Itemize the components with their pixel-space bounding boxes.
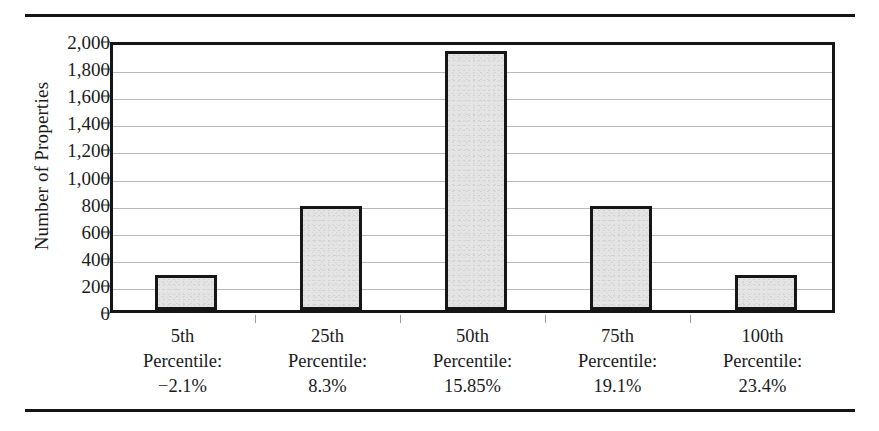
top-divider-rule	[25, 14, 855, 17]
y-axis-tick-label: 0	[20, 304, 110, 323]
x-axis-category-label-line: 50th	[400, 324, 545, 349]
plot-area	[110, 42, 835, 313]
x-axis-tick-mark	[400, 315, 401, 323]
bar-slot	[403, 45, 548, 310]
plot-inner	[113, 45, 832, 310]
bar-chart-figure: Number of Properties 2,0001,8001,6001,40…	[0, 0, 879, 431]
bar	[300, 206, 362, 310]
bar-slot	[693, 45, 838, 310]
x-axis-category-label-line: Percentile:	[545, 349, 690, 374]
x-axis-category-label-line: 5th	[110, 324, 255, 349]
bar	[735, 275, 797, 310]
x-axis-category-label-line: Percentile:	[110, 349, 255, 374]
y-axis-tick-mark	[101, 177, 110, 178]
bar	[155, 275, 217, 310]
x-axis-tick-mark	[255, 315, 256, 323]
x-axis-category-label-line: 15.85%	[400, 374, 545, 399]
x-axis-category-label-line: −2.1%	[110, 374, 255, 399]
bottom-divider-rule	[25, 409, 855, 412]
x-axis-category-label-line: 25th	[255, 324, 400, 349]
x-axis-category-label-line: 75th	[545, 324, 690, 349]
y-axis-tick-mark	[101, 96, 110, 97]
x-axis-category-label: 25thPercentile:8.3%	[255, 324, 400, 399]
y-axis-tick-mark	[101, 150, 110, 151]
x-axis-category-label-line: 19.1%	[545, 374, 690, 399]
x-axis-label-group: 5thPercentile:−2.1%25thPercentile:8.3%50…	[110, 324, 835, 399]
x-axis-tick-mark	[690, 315, 691, 323]
x-axis-category-label-line: 23.4%	[690, 374, 835, 399]
x-axis-category-label-line: Percentile:	[255, 349, 400, 374]
bar-slot	[258, 45, 403, 310]
x-axis-category-label-line: Percentile:	[400, 349, 545, 374]
x-axis-category-label: 50thPercentile:15.85%	[400, 324, 545, 399]
bar	[445, 51, 507, 310]
x-axis-category-label-line: 8.3%	[255, 374, 400, 399]
y-axis-tick-mark	[101, 313, 110, 314]
x-axis-category-label: 100thPercentile:23.4%	[690, 324, 835, 399]
y-axis-tick-mark	[101, 123, 110, 124]
y-axis-tick-mark	[101, 258, 110, 259]
x-axis-category-label: 5thPercentile:−2.1%	[110, 324, 255, 399]
bar-slot	[113, 45, 258, 310]
y-axis-tick-mark	[101, 204, 110, 205]
x-axis-category-label-line: 100th	[690, 324, 835, 349]
y-axis-tick-mark	[101, 69, 110, 70]
bar	[590, 206, 652, 310]
x-axis-category-label-line: Percentile:	[690, 349, 835, 374]
x-axis-tick-mark	[545, 315, 546, 323]
y-axis-title: Number of Properties	[31, 36, 53, 296]
bar-slot	[548, 45, 693, 310]
y-axis-tick-mark	[101, 231, 110, 232]
y-axis-tick-mark	[101, 285, 110, 286]
x-axis-tick-group	[110, 313, 835, 323]
y-axis-tick-mark	[101, 42, 110, 43]
x-axis-category-label: 75thPercentile:19.1%	[545, 324, 690, 399]
